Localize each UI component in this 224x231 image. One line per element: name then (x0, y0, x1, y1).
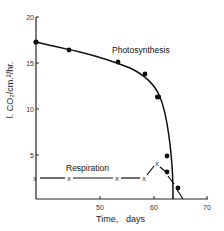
ytick-label-5: 5 (30, 152, 34, 159)
x-axis-title-days: days (126, 214, 146, 224)
y-axis-title: l. CO₂/cm.²/hr. (5, 62, 15, 119)
respiration-curve (40, 166, 183, 199)
x-axis-title-time: Time, (96, 214, 118, 224)
ytick-label-15: 15 (26, 60, 34, 67)
xtick-label-60: 60 (150, 204, 158, 211)
photosynthesis-point (67, 48, 72, 53)
photosynthesis-point (165, 170, 170, 175)
respiration-label: Respiration (66, 163, 109, 173)
photosynthesis-point (155, 95, 161, 100)
xtick-label-70: 70 (203, 204, 211, 211)
xtick-label-50: 50 (96, 204, 104, 211)
respiration-point: x (155, 160, 159, 167)
photosynthesis-point (165, 154, 170, 159)
x-ticks: 50 60 70 (96, 196, 211, 211)
photosynthesis-label: Photosynthesis (112, 45, 170, 55)
ytick-label-20: 20 (26, 14, 34, 21)
respiration-point: x (67, 175, 71, 182)
photosynthesis-point (33, 39, 38, 44)
photosynthesis-point (143, 72, 148, 77)
photosynthesis-curve (36, 42, 173, 199)
respiration-point: x (115, 175, 119, 182)
ytick-label-10: 10 (26, 106, 34, 113)
y-ticks: 20 15 10 5 (26, 14, 39, 159)
respiration-point: x (33, 175, 37, 182)
respiration-point: x (142, 175, 146, 182)
photosynthesis-point (116, 60, 121, 65)
chart-canvas: 20 15 10 5 50 60 70 Time, days l. CO₂/cm… (0, 0, 224, 231)
